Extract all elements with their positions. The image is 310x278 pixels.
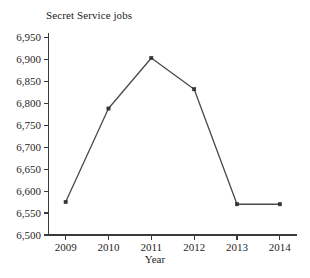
data-point-marker [235,203,238,206]
x-tick-label: 2011 [141,241,163,253]
y-tick-label: 6,550 [16,207,41,219]
x-tick-label: 2013 [226,241,249,253]
x-axis-title: Year [0,253,310,265]
y-tick-label: 6,950 [16,31,41,43]
data-point-marker [107,107,110,110]
y-tick-label: 6,600 [16,185,41,197]
data-point-markers [64,56,281,205]
data-point-marker [278,203,281,206]
y-tick-label: 6,850 [16,75,41,87]
chart-container: Secret Service jobs 6,5006,5506,6006,650… [0,0,310,278]
y-tick-label: 6,500 [16,229,41,241]
y-tick-label: 6,900 [16,53,41,65]
y-tick-label: 6,650 [16,163,41,175]
data-point-marker [64,200,67,203]
y-tick-label: 6,800 [16,97,41,109]
data-series-line [66,58,280,204]
x-tick-label: 2009 [55,241,78,253]
y-tick-label: 6,700 [16,141,41,153]
x-tick-label: 2014 [269,241,292,253]
x-tick-label: 2012 [183,241,205,253]
y-tick-label: 6,750 [16,119,41,131]
line-chart-plot: 6,5006,5506,6006,6506,7006,7506,8006,850… [0,0,310,278]
x-axis-tick-labels: 200920102011201220132014 [55,241,292,253]
x-tick-label: 2010 [97,241,120,253]
data-point-marker [193,88,196,91]
data-point-marker [150,56,153,59]
y-axis-tick-labels: 6,5006,5506,6006,6506,7006,7506,8006,850… [16,31,41,241]
